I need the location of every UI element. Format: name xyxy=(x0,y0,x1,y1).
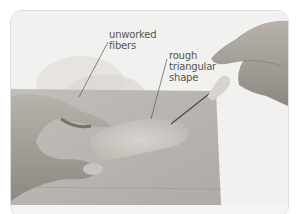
photo-panel: unworked fibers rough triangular shape xyxy=(10,10,289,214)
label-line: rough xyxy=(169,50,216,61)
label-line: shape xyxy=(169,72,216,83)
label-rough-triangular-shape: rough triangular shape xyxy=(169,50,216,83)
label-line: unworked xyxy=(109,29,156,40)
label-unworked-fibers: unworked fibers xyxy=(109,29,156,51)
label-line: fibers xyxy=(109,40,156,51)
label-line: triangular xyxy=(169,61,216,72)
panel-footer xyxy=(11,205,288,214)
felting-photo: unworked fibers rough triangular shape xyxy=(11,11,288,205)
